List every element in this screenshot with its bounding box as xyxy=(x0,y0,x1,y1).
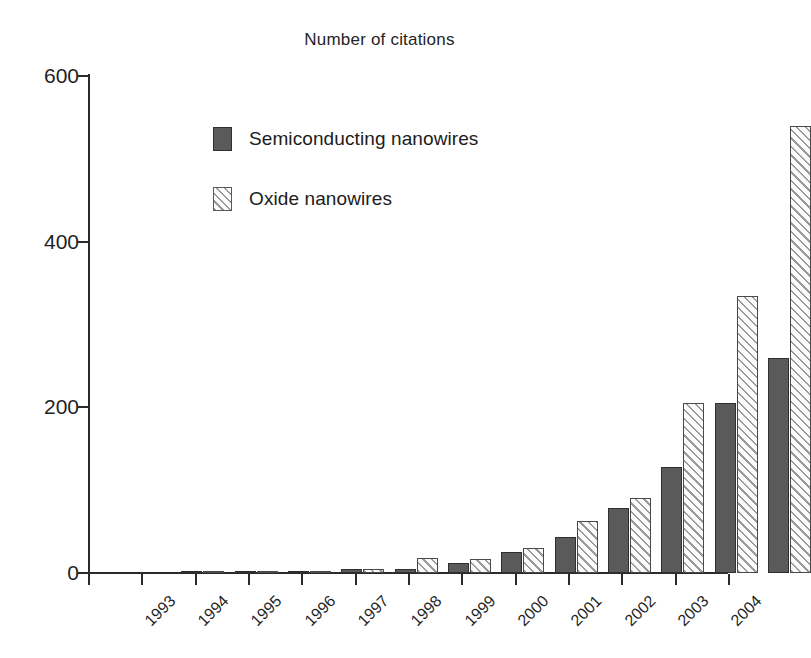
x-tick-1996 xyxy=(248,574,250,585)
bar-2001-oxide xyxy=(630,498,651,573)
x-tick-label-1999: 1999 xyxy=(461,592,499,630)
x-tick-1995 xyxy=(195,574,197,585)
bar-2003-semiconducting xyxy=(715,403,736,573)
x-tick-2000 xyxy=(461,574,463,585)
bar-1997-oxide xyxy=(417,558,438,573)
bar-1998-semiconducting xyxy=(448,563,469,573)
y-tick-400 xyxy=(78,241,88,243)
y-tick-label-400: 400 xyxy=(44,229,79,253)
x-tick-label-1998: 1998 xyxy=(408,592,446,630)
x-tick-end xyxy=(728,574,730,585)
x-tick-label-2001: 2001 xyxy=(568,592,606,630)
x-tick-label-2004: 2004 xyxy=(728,592,766,630)
x-tick-2002 xyxy=(568,574,570,585)
y-tick-600 xyxy=(78,75,88,77)
bar-2001-semiconducting xyxy=(608,508,629,573)
bar-1994-oxide xyxy=(257,571,278,574)
bar-1993-oxide xyxy=(203,571,224,574)
y-tick-label-600: 600 xyxy=(44,64,79,88)
bar-2002-oxide xyxy=(683,403,704,573)
bar-1993-semiconducting xyxy=(181,571,202,574)
legend-label-semiconducting: Semiconducting nanowires xyxy=(249,128,478,150)
bar-1999-oxide xyxy=(523,548,544,573)
legend-label-oxide: Oxide nanowires xyxy=(249,188,392,210)
bar-2002-semiconducting xyxy=(661,467,682,573)
bar-1995-semiconducting xyxy=(288,571,309,574)
x-tick-label-1993: 1993 xyxy=(141,592,179,630)
x-tick-1999 xyxy=(408,574,410,585)
x-tick-label-1997: 1997 xyxy=(354,592,392,630)
x-tick-2004 xyxy=(675,574,677,585)
bar-1999-semiconducting xyxy=(501,552,522,573)
bar-1995-oxide xyxy=(310,571,331,574)
y-tick-label-200: 200 xyxy=(44,395,79,419)
bar-2004-semiconducting xyxy=(768,358,789,573)
bar-1997-semiconducting xyxy=(395,569,416,573)
x-tick-2003 xyxy=(621,574,623,585)
x-tick-label-2002: 2002 xyxy=(621,592,659,630)
hatched-swatch xyxy=(213,187,232,211)
x-tick-label-2003: 2003 xyxy=(674,592,712,630)
x-tick-label-1995: 1995 xyxy=(248,592,286,630)
bar-1996-semiconducting xyxy=(341,569,362,573)
bar-2004-oxide xyxy=(790,126,811,573)
y-tick-0 xyxy=(78,572,88,574)
y-tick-200 xyxy=(78,406,88,408)
x-tick-label-2000: 2000 xyxy=(514,592,552,630)
legend-item-semiconducting: Semiconducting nanowires xyxy=(213,127,478,151)
bar-1996-oxide xyxy=(363,569,384,573)
x-tick-label-1994: 1994 xyxy=(194,592,232,630)
bar-2003-oxide xyxy=(737,296,758,573)
bar-2000-semiconducting xyxy=(555,537,576,573)
y-tick-label-0: 0 xyxy=(67,561,79,585)
x-tick-2001 xyxy=(515,574,517,585)
chart-title: Number of citations xyxy=(0,30,759,50)
solid-gray-swatch xyxy=(213,127,232,151)
legend-item-oxide: Oxide nanowires xyxy=(213,187,478,211)
x-tick-1998 xyxy=(355,574,357,585)
chart-legend: Semiconducting nanowires Oxide nanowires xyxy=(213,127,478,247)
x-tick-1994 xyxy=(141,574,143,585)
x-tick-1993 xyxy=(88,574,90,585)
bar-1994-semiconducting xyxy=(235,571,256,574)
bar-1998-oxide xyxy=(470,559,491,573)
x-tick-1997 xyxy=(301,574,303,585)
bar-2000-oxide xyxy=(577,521,598,573)
x-tick-label-1996: 1996 xyxy=(301,592,339,630)
